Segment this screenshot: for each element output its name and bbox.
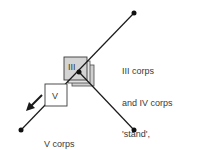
annotation-stand: III corps and IV corps 'stand', C.-in-C.… (122, 45, 181, 150)
annotation-withdraw: V corps 'withdraws'. (44, 118, 90, 150)
withdraw-arrow-icon (26, 95, 42, 111)
endpoint-top-right (132, 11, 137, 16)
annotation-stand-line: and IV corps (122, 98, 181, 109)
box-iii-label: III (68, 62, 76, 72)
box-v-label: V (52, 91, 58, 101)
junction-point (77, 70, 82, 75)
annotation-withdraw-line: V corps (44, 139, 90, 150)
endpoint-bottom-left (19, 128, 24, 133)
annotation-stand-line: III corps (122, 66, 181, 77)
annotation-stand-line: 'stand', (122, 129, 181, 140)
